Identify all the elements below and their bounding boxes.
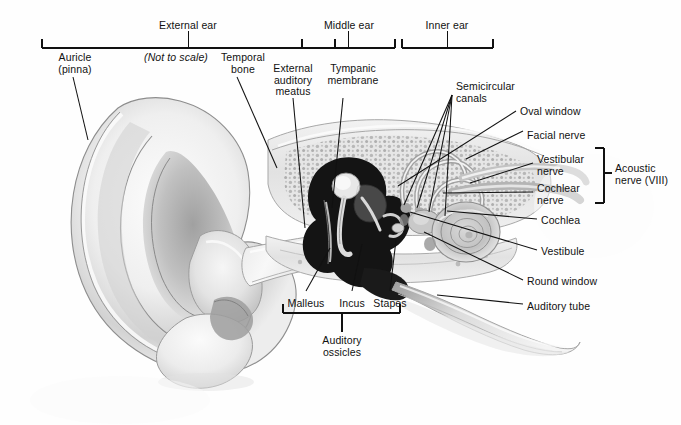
label-malleus: Malleus [288,298,325,310]
label-vestibule-line-1: Vestibule [541,246,585,258]
label-vestibular-nerve: Vestibularnerve [537,154,584,177]
ear-anatomy-figure: External earMiddle earInner earAuricle(p… [0,0,681,425]
label-semicircular-canals: Semicircularcanals [456,81,515,104]
region-label-middle-ear: Middle ear [324,20,374,32]
leader-stapes [390,240,396,291]
label-cochlear-nerve-line-1: Cochlear [537,183,580,195]
label-acoustic-nerve: Acousticnerve (VIII) [615,163,668,186]
label-not-to-scale: (Not to scale) [144,52,208,64]
leader-auricle [73,77,88,140]
label-auditory-ossicles: Auditoryossicles [322,335,361,358]
leader-temporal-bone [237,77,277,168]
label-vestibule: Vestibule [541,246,585,258]
leader-facial-nerve [466,131,523,159]
label-cochlear-nerve: Cochlearnerve [537,183,580,206]
label-auricle-line-2: (pinna) [58,64,91,76]
leader-tympanic-memb [332,98,343,208]
label-stapes-line-1: Stapes [373,298,406,310]
label-tympanic-membrane: Tympanicmembrane [328,63,379,86]
label-malleus-line-1: Malleus [288,298,325,310]
label-auricle-line-1: Auricle [58,52,91,64]
label-semicircular-canals-line-1: Semicircular [456,81,515,93]
label-semicircular-canals-line-2: canals [456,93,515,105]
label-auditory-tube: Auditory tube [527,301,590,313]
label-tympanic-membrane-line-2: membrane [328,75,379,87]
label-facial-nerve-line-1: Facial nerve [527,130,585,142]
label-external-auditory-meatus-line-3: meatus [273,86,312,98]
label-external-auditory-meatus: Externalauditorymeatus [273,63,312,98]
label-auditory-tube-line-1: Auditory tube [527,301,590,313]
leader-incus [352,244,362,291]
label-auricle: Auricle(pinna) [58,52,91,75]
label-cochlear-nerve-line-2: nerve [537,195,580,207]
label-acoustic-nerve-line-2: nerve (VIII) [615,175,668,187]
label-round-window: Round window [527,276,597,288]
leader-cochlear [443,192,533,193]
label-not-to-scale-line-1: (Not to scale) [144,52,208,64]
region-label-inner-ear: Inner ear [426,20,469,32]
region-label-middle-ear-line-1: Middle ear [324,20,374,32]
label-tympanic-membrane-line-1: Tympanic [328,63,379,75]
label-facial-nerve: Facial nerve [527,130,585,142]
leader-round-window [424,232,523,280]
label-stapes: Stapes [373,298,406,310]
region-label-external-ear-line-1: External ear [159,20,217,32]
label-cochlea-line-1: Cochlea [541,215,580,227]
label-round-window-line-1: Round window [527,276,597,288]
label-temporal-bone-line-1: Temporal [221,52,265,64]
label-cochlea: Cochlea [541,215,580,227]
label-incus-line-1: Incus [339,298,365,310]
leader-cochlea [447,211,537,219]
label-auditory-ossicles-line-2: ossicles [322,347,361,359]
label-oval-window-line-1: Oval window [520,106,581,118]
label-temporal-bone-line-2: bone [221,64,265,76]
leader-ext-meatus [293,98,305,228]
label-external-auditory-meatus-line-1: External [273,63,312,75]
label-vestibular-nerve-line-1: Vestibular [537,154,584,166]
label-acoustic-nerve-line-1: Acoustic [615,163,668,175]
label-incus: Incus [339,298,365,310]
region-label-external-ear: External ear [159,20,217,32]
label-auditory-ossicles-line-1: Auditory [322,335,361,347]
label-vestibular-nerve-line-2: nerve [537,166,584,178]
leader-oval-window [398,111,516,186]
leader-vestibular [470,163,533,183]
region-label-inner-ear-line-1: Inner ear [426,20,469,32]
label-temporal-bone: Temporalbone [221,52,265,75]
leader-auditory-tube [437,295,523,304]
label-oval-window: Oval window [520,106,581,118]
leader-semicircular-1 [404,95,452,205]
leader-malleus [306,248,330,291]
